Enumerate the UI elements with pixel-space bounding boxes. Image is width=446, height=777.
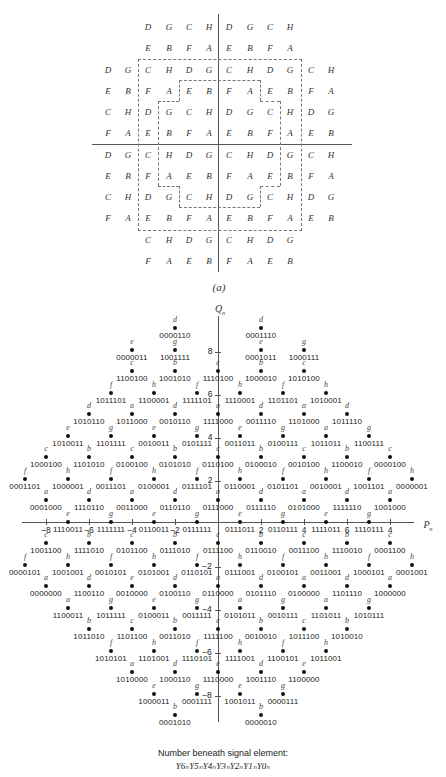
signal-point-code: 0101111 bbox=[182, 439, 212, 448]
signal-point-letter: e bbox=[152, 681, 156, 690]
signal-point-letter: d bbox=[173, 487, 177, 496]
signal-dot-icon bbox=[259, 348, 263, 352]
signal-point-code: 1101001 bbox=[138, 654, 169, 663]
lattice-letter: G bbox=[166, 107, 173, 117]
q-axis-label: Qn bbox=[215, 303, 225, 316]
lattice-letter: G bbox=[206, 150, 213, 160]
signal-dot-icon bbox=[367, 520, 371, 524]
signal-point-letter: c bbox=[44, 530, 48, 539]
signal-dot-icon bbox=[130, 670, 134, 674]
signal-point-code: 0011100 bbox=[289, 546, 320, 555]
signal-point-code: 0101110 bbox=[246, 589, 277, 598]
lattice-letter: E bbox=[186, 86, 192, 96]
lattice-letter: A bbox=[166, 171, 172, 181]
lattice-letter: F bbox=[226, 256, 232, 266]
signal-dot-icon bbox=[345, 412, 349, 416]
lattice-letter: B bbox=[166, 128, 172, 138]
signal-point-letter: a bbox=[324, 595, 328, 604]
signal-point-code: 1100001 bbox=[138, 396, 169, 405]
signal-point-code: 0100001 bbox=[138, 482, 170, 491]
signal-point-letter: a bbox=[302, 401, 306, 410]
signal-dot-icon bbox=[259, 713, 263, 717]
signal-dot-icon bbox=[216, 584, 220, 588]
signal-point-code: 1010100 bbox=[288, 374, 320, 383]
inner-dashed-left-ledge bbox=[158, 101, 179, 102]
lattice-letter: F bbox=[267, 213, 273, 223]
lattice-letter: D bbox=[226, 107, 233, 117]
signal-point-letter: f bbox=[110, 466, 112, 475]
signal-point-letter: h bbox=[152, 638, 156, 647]
signal-point-letter: h bbox=[324, 552, 328, 561]
signal-point-letter: h bbox=[66, 466, 70, 475]
signal-dot-icon bbox=[152, 563, 156, 567]
signal-point-code: 1110100 bbox=[203, 374, 234, 383]
signal-dot-icon bbox=[152, 692, 156, 696]
signal-dot-icon bbox=[367, 563, 371, 567]
lattice-letter: G bbox=[206, 65, 213, 75]
lattice-letter: E bbox=[226, 43, 232, 53]
signal-point-code: 0100101 bbox=[267, 568, 299, 577]
signal-dot-icon bbox=[130, 541, 134, 545]
lattice-letter: D bbox=[105, 150, 112, 160]
signal-point-code: 0110100 bbox=[202, 460, 233, 469]
signal-point-letter: d bbox=[173, 573, 177, 582]
signal-dot-icon bbox=[130, 348, 134, 352]
signal-point-letter: b bbox=[173, 444, 177, 453]
signal-dot-icon bbox=[44, 584, 48, 588]
signal-dot-icon bbox=[23, 477, 27, 481]
signal-point-letter: e bbox=[130, 337, 134, 346]
signal-point-code: 1010010 bbox=[331, 632, 363, 641]
lattice-letter: D bbox=[145, 192, 152, 202]
signal-dot-icon bbox=[87, 541, 91, 545]
signal-dot-icon bbox=[195, 391, 199, 395]
signal-point-code: 0100000 bbox=[288, 589, 320, 598]
signal-point-code: 1000100 bbox=[30, 460, 62, 469]
signal-point-letter: c bbox=[388, 444, 392, 453]
signal-point-letter: g bbox=[281, 509, 285, 518]
lattice-letter: F bbox=[105, 128, 111, 138]
signal-point-letter: b bbox=[345, 616, 349, 625]
signal-dot-icon bbox=[152, 606, 156, 610]
signal-point-code: 0000010 bbox=[245, 718, 277, 727]
lattice-letter: G bbox=[247, 22, 254, 32]
signal-dot-icon bbox=[173, 348, 177, 352]
lattice-letter: F bbox=[186, 128, 192, 138]
signal-dot-icon bbox=[66, 434, 70, 438]
lattice-letter: F bbox=[308, 86, 314, 96]
signal-point-code: 0001100 bbox=[374, 546, 405, 555]
lattice-letter: G bbox=[247, 192, 254, 202]
lattice-letter: A bbox=[247, 256, 253, 266]
signal-point-letter: h bbox=[410, 552, 414, 561]
signal-dot-icon bbox=[302, 541, 306, 545]
signal-point-code: 1111100 bbox=[203, 632, 232, 641]
signal-point-letter: f bbox=[368, 552, 370, 561]
q-axis-tick bbox=[215, 696, 221, 697]
signal-dot-icon bbox=[302, 627, 306, 631]
signal-point-letter: b bbox=[173, 702, 177, 711]
lattice-letter: A bbox=[247, 86, 253, 96]
signal-dot-icon bbox=[324, 606, 328, 610]
signal-point-letter: d bbox=[173, 315, 177, 324]
signal-point-code: 0000101 bbox=[9, 568, 41, 577]
signal-point-code: 1101010 bbox=[73, 460, 104, 469]
signal-point-letter: a bbox=[238, 595, 242, 604]
signal-point-code: 0010011 bbox=[138, 439, 169, 448]
lattice-letter: B bbox=[206, 256, 212, 266]
lattice-letter: E bbox=[226, 128, 232, 138]
signal-point-letter: b bbox=[259, 616, 263, 625]
signal-dot-icon bbox=[259, 326, 263, 330]
lattice-letter: C bbox=[267, 107, 273, 117]
signal-dot-icon bbox=[130, 584, 134, 588]
lattice-letter: D bbox=[186, 150, 193, 160]
lattice-letter: D bbox=[267, 235, 274, 245]
lattice-letter: F bbox=[145, 171, 151, 181]
lattice-letter: E bbox=[145, 213, 151, 223]
lattice-letter: H bbox=[247, 150, 254, 160]
signal-point-letter: f bbox=[282, 380, 284, 389]
q-axis-tick bbox=[215, 481, 221, 482]
lattice-letter: D bbox=[226, 192, 233, 202]
signal-point-code: 0101011 bbox=[224, 611, 255, 620]
signal-dot-icon bbox=[345, 627, 349, 631]
signal-point-letter: e bbox=[66, 509, 70, 518]
signal-dot-icon bbox=[195, 520, 199, 524]
